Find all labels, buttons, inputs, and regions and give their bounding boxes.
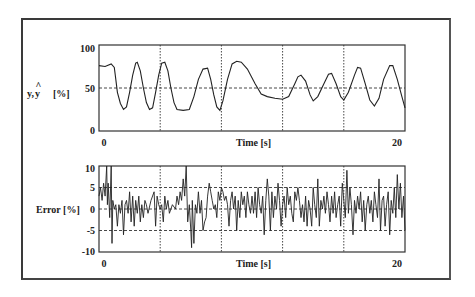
top-plot: 100 50 0 0 20 Time [s] y, y ^ [%]	[27, 43, 405, 148]
bottom-ytick-5: 5	[90, 182, 95, 193]
bottom-plot: 10 5 0 -5 -10 0 20 Time [s] Error [%]	[36, 163, 405, 269]
bottom-xlabel: Time [s]	[236, 258, 271, 269]
top-xtick-0: 0	[102, 137, 107, 148]
bottom-xtick-0: 0	[102, 258, 107, 269]
top-ytick-100: 100	[80, 43, 95, 54]
top-ylabel-unit: [%]	[53, 88, 70, 99]
bottom-ytick-10: 10	[85, 163, 95, 174]
top-xlabel: Time [s]	[236, 137, 271, 148]
top-ytick-0: 0	[90, 125, 95, 136]
hat-icon: ^	[36, 80, 42, 91]
top-xtick-20: 20	[392, 137, 402, 148]
bottom-ytick-0: 0	[90, 204, 95, 215]
bottom-ytick-minus10: -10	[82, 246, 95, 257]
bottom-ytick-minus5: -5	[87, 225, 95, 236]
chart-canvas: 100 50 0 0 20 Time [s] y, y ^ [%] 10 5 0…	[0, 0, 475, 297]
bottom-xtick-20: 20	[392, 258, 402, 269]
top-ytick-50: 50	[85, 83, 95, 94]
bottom-ylabel: Error [%]	[36, 204, 80, 215]
top-ylabel-y: y,	[27, 88, 34, 99]
